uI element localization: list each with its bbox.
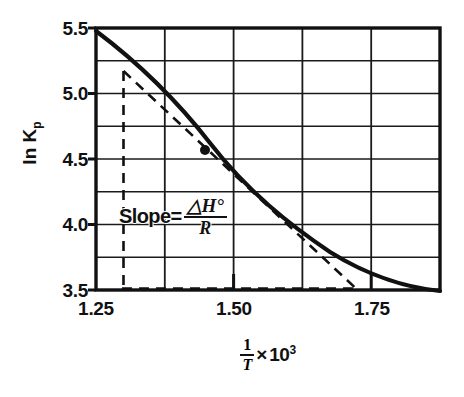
slope-annotation: Slope= △H° R bbox=[119, 196, 227, 237]
slope-annotation-numerator: △H° bbox=[184, 196, 227, 216]
slope-annotation-denominator: R bbox=[196, 218, 214, 237]
slope-annotation-label: Slope= bbox=[119, 205, 182, 228]
plot-area bbox=[0, 0, 464, 397]
data-point-marker bbox=[200, 145, 210, 155]
slope-annotation-fraction: △H° R bbox=[184, 196, 227, 237]
chart-figure: 5.5 5.0 4.5 4.0 3.5 1.25 1.50 1.75 ln Kp… bbox=[0, 0, 464, 397]
